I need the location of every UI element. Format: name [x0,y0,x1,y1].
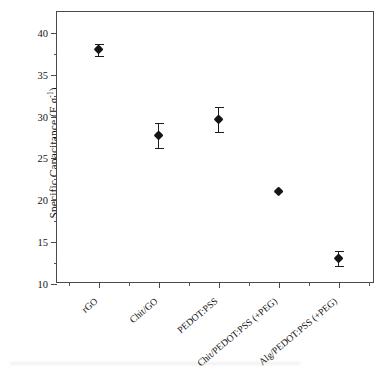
x-category-label: PEDOT:PSS [175,295,220,335]
y-tick-major [51,200,57,201]
chart-figure: Specific Capacitance (F g-1) 10152025303… [0,0,392,371]
data-marker [214,114,224,124]
scan-artifact [10,362,300,365]
y-tick-major [51,75,57,76]
y-tick-major [51,33,57,34]
y-tick-major [51,242,57,243]
y-tick-major [51,117,57,118]
y-tick-minor [54,138,58,139]
data-marker [154,131,164,141]
y-tick-label: 10 [38,279,49,290]
error-bar-cap [155,123,164,124]
y-tick-label: 25 [38,153,49,164]
y-tick-label: 40 [38,27,49,38]
x-tick-minor [249,282,250,286]
data-marker [94,45,104,55]
y-tick-minor [54,54,58,55]
error-bar-cap [155,148,164,149]
y-tick-label: 30 [38,111,49,122]
data-marker [334,254,344,264]
x-tick-minor [129,282,130,286]
error-bar-cap [215,132,224,133]
x-tick-major [279,282,280,288]
y-tick-minor [54,221,58,222]
y-tick-major [51,284,57,285]
error-bar-cap [95,56,104,57]
x-tick-minor [369,282,370,286]
x-tick-major [159,282,160,288]
y-tick-label: 20 [38,195,49,206]
error-bar-cap [215,107,224,108]
y-tick-minor [54,179,58,180]
plot-area: 10152025303540 [56,11,374,283]
x-tick-major [339,282,340,288]
x-tick-major [219,282,220,288]
y-tick-minor [54,263,58,264]
error-bar-cap [335,266,344,267]
x-tick-minor [189,282,190,286]
x-tick-minor [69,282,70,286]
x-tick-minor [309,282,310,286]
x-category-label: rGO [79,295,99,314]
y-tick-label: 15 [38,237,49,248]
error-bar-cap [335,251,344,252]
y-tick-label: 35 [38,69,49,80]
data-marker [274,186,284,196]
y-tick-minor [54,96,58,97]
x-category-label: Chit/GO [127,295,159,325]
x-tick-major [99,282,100,288]
y-tick-major [51,158,57,159]
